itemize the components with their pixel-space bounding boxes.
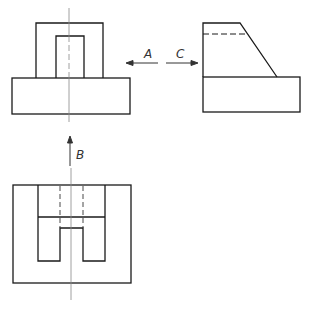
- drawing-canvas: A C B: [0, 0, 310, 311]
- view-arrow-b: [68, 136, 73, 166]
- bottom-view: [13, 185, 131, 283]
- label-a: A: [143, 47, 152, 61]
- view-arrow-c: [166, 61, 198, 66]
- bottom-hidden-lines: [60, 186, 83, 228]
- front-upright-inner: [56, 36, 84, 78]
- side-upright: [203, 23, 277, 77]
- bottom-u-shape: [38, 185, 105, 261]
- front-upright-outer: [36, 23, 103, 78]
- label-b: B: [76, 148, 84, 162]
- bottom-outer: [13, 185, 131, 283]
- view-arrow-a: [126, 61, 158, 66]
- front-base: [12, 78, 130, 114]
- label-c: C: [176, 47, 185, 61]
- side-base: [203, 77, 300, 112]
- side-view: [203, 23, 300, 112]
- front-view: [12, 23, 130, 114]
